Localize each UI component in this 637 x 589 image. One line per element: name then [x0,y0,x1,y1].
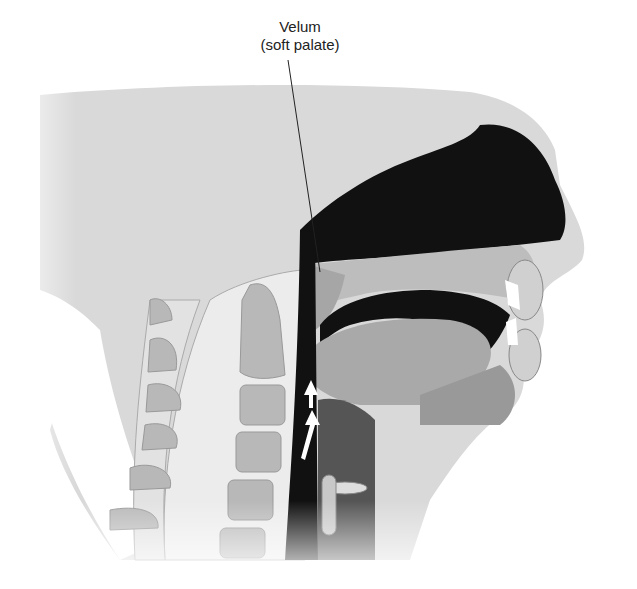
head-neck-sagittal-diagram [0,0,637,589]
